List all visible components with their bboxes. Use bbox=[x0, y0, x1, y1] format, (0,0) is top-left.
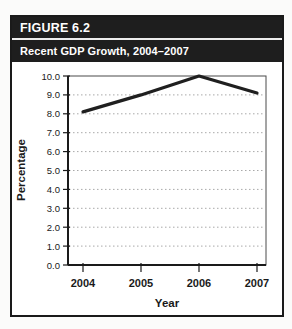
x-tick-label: 2006 bbox=[187, 277, 211, 289]
y-tick-label: 9.0 bbox=[47, 89, 60, 100]
tick-labels: 0.01.02.03.04.05.06.07.08.09.010.0200420… bbox=[42, 71, 270, 290]
gridlines bbox=[69, 95, 265, 246]
chart-area: 0.01.02.03.04.05.06.07.08.09.010.0200420… bbox=[12, 62, 282, 315]
y-tick-label: 7.0 bbox=[47, 127, 60, 138]
figure-title: Recent GDP Growth, 2004–2007 bbox=[12, 40, 282, 62]
y-tick-label: 10.0 bbox=[42, 71, 61, 82]
y-tick-label: 2.0 bbox=[47, 222, 60, 233]
figure-label: FIGURE 6.2 bbox=[12, 17, 282, 38]
x-tick-label: 2005 bbox=[129, 277, 153, 289]
y-tick-label: 8.0 bbox=[47, 108, 60, 119]
y-tick-label: 3.0 bbox=[47, 203, 60, 214]
x-axis-title: Year bbox=[155, 297, 180, 309]
x-tick-label: 2004 bbox=[71, 277, 96, 289]
x-tick-label: 2007 bbox=[245, 277, 269, 289]
y-tick-label: 4.0 bbox=[47, 184, 60, 195]
gdp-series-line bbox=[83, 76, 257, 112]
gdp-growth-line bbox=[83, 76, 257, 112]
axis-ticks bbox=[63, 76, 257, 272]
y-tick-label: 5.0 bbox=[47, 165, 60, 176]
gdp-line-chart: 0.01.02.03.04.05.06.07.08.09.010.0200420… bbox=[12, 62, 282, 315]
y-tick-label: 0.0 bbox=[47, 260, 60, 271]
figure-header: FIGURE 6.2 Recent GDP Growth, 2004–2007 bbox=[12, 17, 282, 62]
y-tick-label: 6.0 bbox=[47, 146, 60, 157]
figure-box: FIGURE 6.2 Recent GDP Growth, 2004–2007 … bbox=[10, 15, 284, 317]
y-tick-label: 1.0 bbox=[47, 241, 60, 252]
y-axis-title: Percentage bbox=[15, 139, 27, 201]
